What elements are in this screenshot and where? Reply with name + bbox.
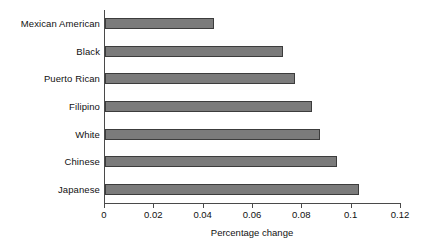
x-axis-tick-label: 0.12 bbox=[391, 209, 410, 220]
category-label: Japanese bbox=[0, 184, 100, 195]
category-label: Filipino bbox=[0, 101, 100, 112]
category-label: Mexican American bbox=[0, 18, 100, 29]
x-axis-tick-label: 0.08 bbox=[292, 209, 311, 220]
x-axis-tick bbox=[104, 203, 105, 208]
category-label: White bbox=[0, 129, 100, 140]
bar bbox=[105, 101, 312, 112]
bar bbox=[105, 129, 320, 140]
category-axis-labels: Mexican American Black Puerto Rican Fili… bbox=[0, 0, 100, 203]
bar bbox=[105, 73, 295, 84]
x-axis-title: Percentage change bbox=[104, 227, 400, 238]
x-axis-tick bbox=[351, 203, 352, 208]
x-axis-tick bbox=[301, 203, 302, 208]
x-axis-tick bbox=[252, 203, 253, 208]
bar bbox=[105, 184, 359, 195]
x-axis-tick bbox=[400, 203, 401, 208]
x-axis-tick-label: 0.04 bbox=[193, 209, 212, 220]
x-axis-tick-label: 0 bbox=[101, 209, 106, 220]
bar-chart: Mexican American Black Puerto Rican Fili… bbox=[0, 0, 435, 250]
plot-area bbox=[104, 10, 400, 203]
x-axis-tick-label: 0.02 bbox=[144, 209, 163, 220]
category-label: Chinese bbox=[0, 156, 100, 167]
x-axis-tick bbox=[203, 203, 204, 208]
x-axis-tick-label: 0.06 bbox=[243, 209, 262, 220]
bar bbox=[105, 46, 283, 57]
bar bbox=[105, 156, 337, 167]
category-label: Black bbox=[0, 46, 100, 57]
x-axis-tick bbox=[153, 203, 154, 208]
category-label: Puerto Rican bbox=[0, 73, 100, 84]
bar bbox=[105, 18, 214, 29]
x-axis-tick-label: 0.1 bbox=[344, 209, 357, 220]
